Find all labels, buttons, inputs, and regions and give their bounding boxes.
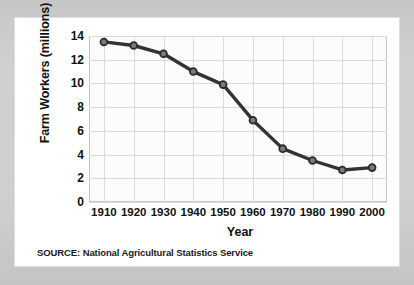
series-line [104, 42, 372, 170]
data-point-marker [101, 39, 108, 46]
y-axis-tick-label: 4 [77, 148, 84, 162]
chart-plot-area: 02468101214 1910192019301940195019601970… [89, 36, 387, 202]
series-markers [101, 39, 376, 174]
x-axis-tick-label: 2000 [359, 206, 385, 218]
x-axis-tick-label: 1960 [240, 206, 266, 218]
y-axis-title: Farm Workers (millions) [38, 0, 52, 163]
x-axis-tick-label: 1940 [181, 206, 207, 218]
data-point-marker [220, 81, 227, 88]
x-axis-tick-label: 1950 [210, 206, 236, 218]
x-axis-tick-label: 1980 [300, 206, 326, 218]
y-axis-tick-label: 10 [71, 76, 84, 90]
data-point-marker [130, 42, 137, 49]
data-point-marker [190, 68, 197, 75]
y-axis-tick-label: 12 [71, 53, 84, 67]
y-axis-tick-label: 6 [77, 124, 84, 138]
figure-card: Farm Workers (millions) 02468101214 1910… [14, 17, 400, 267]
data-point-marker [160, 50, 167, 57]
x-axis-title: Year [90, 225, 390, 239]
data-point-marker [369, 164, 376, 171]
y-axis-tick-label: 14 [71, 29, 84, 43]
page-background: Farm Workers (millions) 02468101214 1910… [0, 0, 414, 285]
data-point-marker [309, 157, 316, 164]
x-axis-tick-label: 1990 [330, 206, 356, 218]
line-series-farm-workers [89, 36, 387, 202]
data-point-marker [279, 145, 286, 152]
data-point-marker [250, 117, 257, 124]
x-axis-tick-label: 1970 [270, 206, 296, 218]
x-axis-tick-label: 1920 [121, 206, 147, 218]
x-axis-tick-label: 1930 [151, 206, 177, 218]
source-note: SOURCE: National Agricultural Statistics… [37, 247, 253, 258]
y-axis-tick-label: 0 [77, 195, 84, 209]
gridline-horizontal [89, 202, 387, 203]
x-axis-tick-label: 1910 [91, 206, 117, 218]
data-point-marker [339, 167, 346, 174]
y-axis-tick-label: 2 [77, 171, 84, 185]
y-axis-tick-label: 8 [77, 100, 84, 114]
